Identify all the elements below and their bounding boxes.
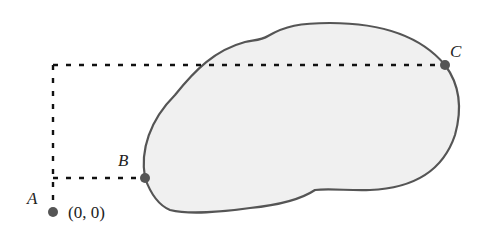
label-b: B — [118, 151, 129, 170]
point-b — [140, 173, 150, 183]
label-a: A — [26, 189, 38, 208]
point-a — [48, 207, 58, 217]
region-shape — [144, 23, 459, 213]
point-c — [440, 60, 450, 70]
label-c: C — [450, 42, 462, 61]
diagram-canvas: A (0, 0) B C — [0, 0, 488, 228]
label-origin: (0, 0) — [68, 203, 105, 222]
